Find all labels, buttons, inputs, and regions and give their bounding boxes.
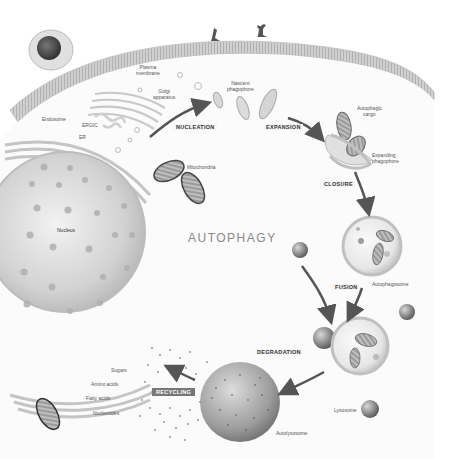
label-autophagosome: Autophagosome [372,281,408,287]
neighbor-cell [29,30,73,70]
autolysosome [200,362,280,442]
label-golgi-line2: apparatus [153,94,175,100]
stage-fusion: FUSION [333,284,360,290]
label-mitochondria: Mitochondria [187,164,216,170]
label-lysosome: Lysosome [334,407,357,413]
label-nucleus: Nucleus [57,227,75,233]
diagram-title: AUTOPHAGY [188,231,277,245]
label-cargo-line2: cargo [357,111,382,117]
stage-expansion: EXPANSION [264,124,303,130]
autophagosome [343,217,401,275]
label-ergic: ERGIC [82,122,98,128]
label-nascent-line2: phagophore [227,86,254,92]
label-er: ER [79,134,86,140]
stage-nucleation: NUCLEATION [174,124,217,130]
label-plasma-membrane-line2: membrane [136,70,160,76]
label-endosome: Endosome [42,116,66,122]
stage-recycling: RECYCLING [152,388,195,396]
product-sugars: Sugars [111,367,127,373]
product-nucleotides: Nucleotides [93,410,119,416]
label-golgi: Golgi apparatus [153,88,175,100]
label-nascent-phagophore: Nascent phagophore [227,80,254,92]
label-expanding-line2: phagophore [372,158,399,164]
label-autophagic-cargo: Autophagic cargo [357,105,382,117]
product-fatty-acids: Fatty acids [86,395,110,401]
label-autolysosome: Autolysosome [276,430,307,436]
label-plasma-membrane: Plasma membrane [136,64,160,76]
stage-degradation: DEGRADATION [255,349,303,355]
stage-closure: CLOSURE [322,181,355,187]
product-amino-acids: Amino acids [91,381,118,387]
label-expanding-phagophore: Expanding phagophore [372,152,399,164]
